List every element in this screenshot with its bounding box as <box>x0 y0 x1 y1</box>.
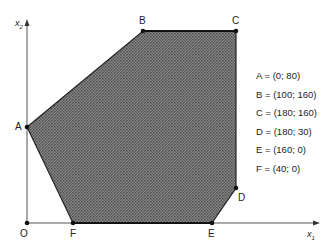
label-e: E <box>208 229 215 239</box>
x-axis-arrow-icon <box>313 221 320 226</box>
point-e <box>210 221 215 226</box>
legend-item-f: F = (40; 0) <box>256 163 317 182</box>
point-b <box>141 29 146 34</box>
label-c: C <box>232 16 239 26</box>
origin-label: O <box>20 229 28 239</box>
legend-item-b: B = (100; 160) <box>256 89 317 108</box>
legend-item-e: E = (160; 0) <box>256 144 317 163</box>
y-axis-label: x2 <box>15 18 23 30</box>
label-b: B <box>139 16 146 26</box>
label-d: D <box>238 193 245 203</box>
point-a <box>25 125 30 130</box>
y-axis-arrow-icon <box>25 19 30 26</box>
point-f <box>71 221 76 226</box>
point-c <box>234 29 239 34</box>
x-axis-label: x1 <box>307 229 315 241</box>
label-f: F <box>70 229 76 239</box>
legend-item-c: C = (180; 160) <box>256 107 317 126</box>
legend-item-a: A = (0; 80) <box>256 70 317 89</box>
feasible-region <box>27 31 236 223</box>
legend-item-d: D = (180; 30) <box>256 126 317 145</box>
origin-point <box>25 221 30 226</box>
coordinates-legend: A = (0; 80) B = (100; 160) C = (180; 160… <box>256 70 317 182</box>
label-a: A <box>15 122 22 132</box>
point-d <box>234 186 239 191</box>
